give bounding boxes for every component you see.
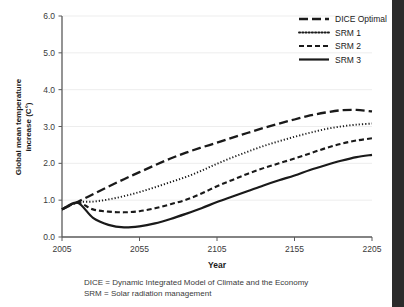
y-tick-label: 3.0 [43, 122, 55, 132]
y-axis-title-line2: increase (C°) [24, 102, 33, 151]
x-tick-label: 2055 [130, 244, 149, 254]
y-tick-label: 4.0 [43, 85, 55, 95]
y-axis-title-line1: Global mean temperature [14, 78, 23, 175]
legend-label: SRM 1 [335, 28, 361, 38]
series-line [62, 155, 372, 228]
footnote-dice: DICE = Dynamic Integrated Model of Clima… [84, 278, 308, 287]
temperature-projection-chart: 0.01.02.03.04.05.06.0 200520552105215522… [0, 0, 404, 307]
y-tick-label: 1.0 [43, 195, 55, 205]
plot-area [62, 110, 372, 228]
x-axis-ticks: 20052055210521552205 [53, 237, 382, 254]
legend-label: DICE Optimal [335, 14, 387, 24]
footnote-srm: SRM = Solar radiation management [84, 289, 212, 298]
legend-label: SRM 3 [335, 55, 361, 65]
legend-label: SRM 2 [335, 41, 361, 51]
x-axis-title: Year [208, 260, 227, 270]
y-tick-label: 5.0 [43, 48, 55, 58]
x-tick-label: 2005 [53, 244, 72, 254]
gridlines [63, 16, 372, 200]
y-tick-label: 6.0 [43, 11, 55, 21]
y-tick-label: 2.0 [43, 158, 55, 168]
legend: DICE OptimalSRM 1SRM 2SRM 3 [299, 14, 387, 64]
x-tick-label: 2205 [363, 244, 382, 254]
series-line [62, 124, 372, 210]
series-line [62, 110, 372, 210]
x-tick-label: 2105 [208, 244, 227, 254]
x-tick-label: 2155 [285, 244, 304, 254]
y-axis-ticks: 0.01.02.03.04.05.06.0 [43, 11, 62, 242]
y-axis-title: Global mean temperature increase (C°) [14, 78, 33, 175]
y-tick-label: 0.0 [43, 232, 55, 242]
